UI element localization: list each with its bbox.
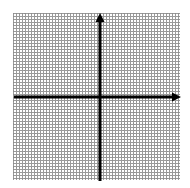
coordinate-plane (0, 0, 190, 188)
x-axis-arrow-icon (172, 93, 181, 102)
axes (0, 0, 190, 188)
y-axis-arrow-icon (96, 13, 105, 22)
